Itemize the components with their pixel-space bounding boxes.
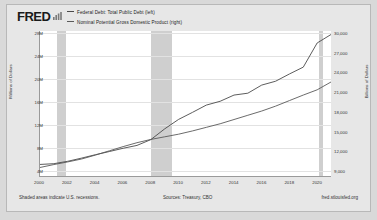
x-tick: 2006	[112, 180, 132, 185]
y-tick-right: 30,000	[334, 31, 360, 36]
x-tick: 2004	[85, 180, 105, 185]
y-tick-left: 16M	[19, 100, 43, 105]
line-federal-debt	[40, 35, 331, 165]
legend-item-gdp[interactable]: Nominal Potential Gross Domestic Product…	[67, 18, 182, 26]
x-tick: 2008	[140, 180, 160, 185]
legend-label-gdp: Nominal Potential Gross Domestic Product…	[77, 19, 182, 27]
y-axis-label-left: Millions of Dollars	[8, 64, 13, 98]
legend-label-debt: Federal Debt: Total Public Debt (left)	[77, 9, 155, 17]
y-tick-right: 18,000	[334, 110, 360, 115]
y-tick-left: 8M	[19, 146, 43, 151]
footer-recession-note: Shaded areas indicate U.S. recessions.	[19, 195, 99, 200]
y-tick-left: 24M	[19, 54, 43, 59]
y-axis-label-right: Billions of Dollars	[364, 65, 369, 99]
y-tick-right: 27,000	[334, 51, 360, 56]
x-tick: 2016	[251, 180, 271, 185]
x-tick: 2000	[29, 180, 49, 185]
y-tick-left: 4M	[19, 169, 43, 174]
legend-item-debt[interactable]: Federal Debt: Total Public Debt (left)	[67, 8, 182, 16]
y-tick-right: 12,000	[334, 149, 360, 154]
x-tick: 2002	[57, 180, 77, 185]
y-tick-left: 12M	[19, 123, 43, 128]
chart-header: FRED Federal Debt: Total Public Debt (le…	[7, 5, 370, 29]
y-tick-right: 24,000	[334, 70, 360, 75]
y-tick-right: 21,000	[334, 90, 360, 95]
line-potential-gdp	[40, 82, 331, 168]
bar-chart-icon	[53, 12, 62, 20]
fred-logo: FRED	[17, 9, 50, 24]
legend-swatch-debt	[67, 11, 74, 12]
y-tick-right: 9,000	[334, 169, 360, 174]
chart-footer: Shaded areas indicate U.S. recessions. S…	[7, 195, 370, 207]
footer-source: Sources: Treasury, CBO	[163, 195, 212, 200]
x-tick: 2012	[196, 180, 216, 185]
legend-swatch-gdp	[67, 21, 74, 22]
y-tick-left: 20M	[19, 77, 43, 82]
series-lines	[40, 31, 331, 176]
chart-legend: Federal Debt: Total Public Debt (left) N…	[67, 8, 182, 28]
x-tick: 2010	[168, 180, 188, 185]
x-tick: 2020	[307, 180, 327, 185]
plot-area	[39, 31, 331, 177]
footer-url[interactable]: fred.stlouisfed.org	[321, 195, 358, 200]
x-tick: 2018	[279, 180, 299, 185]
y-tick-left: 28M	[19, 31, 43, 36]
x-tick: 2014	[224, 180, 244, 185]
y-tick-right: 15,000	[334, 130, 360, 135]
fred-chart-card: FRED Federal Debt: Total Public Debt (le…	[6, 4, 371, 212]
